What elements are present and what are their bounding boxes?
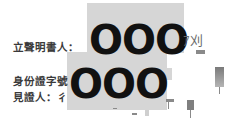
redacted-id-text: OOO: [69, 64, 168, 104]
scan-speck-3: [145, 110, 149, 116]
signature-handwriting: ｱ刈: [183, 30, 203, 49]
seal-mark-4: [187, 100, 194, 110]
witness-label: 見證人：彳: [13, 89, 68, 104]
seal-mark-1: [196, 50, 205, 54]
id-number-label: 身份證字號: [13, 73, 68, 88]
scan-speck-1: [113, 108, 117, 109]
seal-mark-3-stem: [168, 102, 169, 109]
seal-mark-2: [215, 67, 224, 87]
seal-mark-4-stem: [190, 110, 191, 118]
seal-mark-2-stem: [219, 87, 220, 94]
declarant-label: 立聲明書人：: [13, 39, 79, 54]
scan-speck-2: [132, 113, 137, 115]
document-page: 立聲明書人： 身份證字號 見證人：彳 OOO OOO ｱ刈: [0, 0, 236, 125]
redacted-name-text: OOO: [89, 20, 188, 60]
